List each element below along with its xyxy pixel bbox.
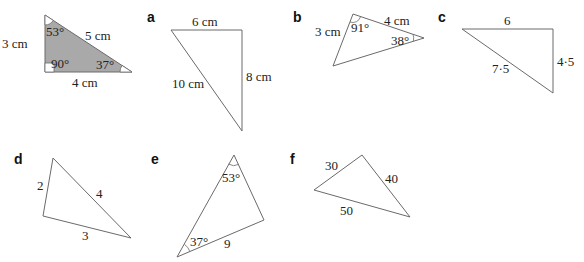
triangle-f-side-left: 30 [325,158,338,173]
example-side-left: 3 cm [2,36,28,51]
part-label-d: d [14,151,23,167]
triangle-d-side-right: 4 [96,186,103,201]
triangle-b: b 3 cm 4 cm 91° 38° [293,9,424,66]
triangle-d-side-bottom: 3 [82,228,89,243]
part-label-f: f [290,151,295,167]
example-side-bottom: 4 cm [72,75,98,90]
triangle-a: a 6 cm 8 cm 10 cm [147,9,272,131]
triangle-c-side-hyp: 7·5 [492,61,509,76]
example-angle-top: 53° [46,24,64,39]
diagram-canvas: 3 cm 5 cm 4 cm 53° 90° 37° a 6 cm 8 cm 1… [0,0,584,262]
triangle-e-angle-bottom: 37° [190,234,208,249]
triangle-e-side-bottom: 9 [224,236,231,251]
triangle-d-side-left: 2 [37,178,44,193]
triangle-a-side-hyp: 10 cm [172,76,204,91]
part-label-b: b [293,9,302,25]
triangle-a-side-top: 6 cm [192,14,218,29]
triangle-f-side-right: 40 [385,171,398,186]
triangle-c-side-right: 4·5 [557,54,574,69]
triangle-f: f 30 40 50 [290,151,410,218]
triangle-d: d 2 4 3 [14,151,131,243]
triangle-b-angle-top: 91° [351,20,369,35]
part-label-e: e [151,151,159,167]
example-side-hypotenuse: 5 cm [85,28,111,43]
triangle-b-side-top: 4 cm [384,13,410,28]
part-label-a: a [147,9,155,25]
triangle-e-angle-arc-top [229,164,239,166]
example-triangle: 3 cm 5 cm 4 cm 53° 90° 37° [2,15,132,90]
example-angle-right: 37° [96,57,114,72]
triangle-d-shape [43,158,131,238]
triangle-e: e 53° 37° 9 [151,151,264,257]
example-angle-right-angle: 90° [51,56,69,71]
triangle-a-side-right: 8 cm [246,69,272,84]
triangle-c: c 6 4·5 7·5 [438,9,574,93]
triangle-b-angle-right: 38° [391,33,409,48]
triangle-f-side-bottom: 50 [340,203,353,218]
triangle-b-shape [333,14,424,66]
triangle-c-side-top: 6 [504,13,511,28]
triangle-e-angle-top: 53° [222,170,240,185]
triangle-b-angle-arc-right [413,34,414,41]
triangles-diagram: 3 cm 5 cm 4 cm 53° 90° 37° a 6 cm 8 cm 1… [0,0,584,262]
part-label-c: c [438,9,446,25]
angle-arc-right [120,65,132,72]
triangle-b-side-left: 3 cm [315,24,341,39]
